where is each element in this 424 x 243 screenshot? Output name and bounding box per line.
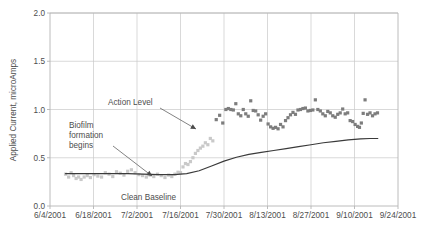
x-tick-label: 9/10/2001 <box>336 211 373 220</box>
data-point-baseline <box>152 175 155 178</box>
data-point-elevated <box>319 109 322 112</box>
data-point-elevated <box>284 119 287 122</box>
annotation-action-level: Action Level <box>108 98 153 107</box>
annotation-arrowhead-action-level <box>190 124 196 129</box>
data-point-baseline <box>181 165 184 168</box>
data-point-baseline <box>111 175 114 178</box>
data-point-baseline <box>83 175 86 178</box>
y-tick-label: 2.0 <box>34 9 46 18</box>
data-point-elevated <box>267 122 270 125</box>
data-point-elevated <box>259 119 262 122</box>
data-point-elevated <box>286 116 289 119</box>
data-point-elevated <box>363 98 366 101</box>
data-point-baseline <box>201 145 204 148</box>
data-point-elevated <box>311 108 314 111</box>
data-point-baseline <box>206 143 209 146</box>
data-point-baseline <box>96 174 99 177</box>
data-point-baseline <box>130 168 133 171</box>
data-point-baseline <box>163 176 166 179</box>
data-point-baseline <box>100 175 103 178</box>
x-axis-tick-labels: 6/4/20016/18/20017/2/20017/16/20017/30/2… <box>34 206 417 220</box>
data-point-elevated <box>249 99 252 102</box>
y-tick-label: 1.5 <box>34 57 46 66</box>
annotation-biofilm-formation-line: begins <box>69 141 93 150</box>
data-point-elevated <box>215 118 218 121</box>
data-point-baseline <box>115 170 118 173</box>
data-point-baseline <box>72 174 75 177</box>
data-point-elevated <box>351 120 354 123</box>
data-point-elevated <box>334 116 337 119</box>
y-axis-tick-labels: 0.00.51.01.52.0 <box>34 9 50 211</box>
data-point-baseline <box>145 175 148 178</box>
y-tick-label: 0.5 <box>34 154 46 163</box>
data-point-baseline <box>186 163 189 166</box>
data-point-elevated <box>341 107 344 110</box>
data-point-elevated <box>294 113 297 116</box>
annotation-arrow-biofilm-formation <box>113 146 152 176</box>
data-point-baseline <box>79 178 82 181</box>
trend-line-path <box>66 138 378 174</box>
annotation-biofilm-formation-line: formation <box>69 131 104 140</box>
x-tick-label: 9/24/2001 <box>380 211 417 220</box>
data-point-elevated <box>339 111 342 114</box>
data-point-elevated <box>247 115 250 118</box>
applied-current-scatter-chart: 0.00.51.01.52.0 6/4/20016/18/20017/2/200… <box>0 0 424 243</box>
data-point-elevated <box>218 114 221 117</box>
data-point-elevated <box>346 111 349 114</box>
y-axis-label: Applied Current, microAmps <box>9 59 18 161</box>
data-point-elevated <box>232 108 235 111</box>
data-point-elevated <box>376 111 379 114</box>
annotation-biofilm-formation-line: Biofilm <box>69 121 94 130</box>
data-point-elevated <box>368 111 371 114</box>
data-point-baseline <box>194 152 197 155</box>
data-point-elevated <box>264 112 267 115</box>
data-point-elevated <box>324 114 327 117</box>
data-point-elevated <box>221 121 224 124</box>
data-point-baseline <box>191 156 194 159</box>
data-point-elevated <box>239 114 242 117</box>
data-point-elevated <box>234 102 237 105</box>
data-point-elevated <box>358 126 361 129</box>
trend-line <box>66 138 378 174</box>
x-tick-label: 6/4/2001 <box>34 211 66 220</box>
annotation-clean-baseline: Clean Baseline <box>121 193 177 202</box>
x-tick-label: 8/13/2001 <box>249 211 286 220</box>
data-point-elevated <box>329 111 332 114</box>
x-tick-label: 7/2/2001 <box>121 211 153 220</box>
annotation-arrow-action-level <box>160 108 196 129</box>
data-point-elevated <box>281 125 284 128</box>
annotations-group: Action LevelBiofilmformationbeginsClean … <box>69 98 196 202</box>
x-tick-label: 6/18/2001 <box>75 211 112 220</box>
annotation-arrowhead-biofilm-formation <box>146 171 152 176</box>
data-point-baseline <box>86 174 89 177</box>
x-tick-label: 7/30/2001 <box>206 211 243 220</box>
data-point-elevated <box>314 98 317 101</box>
data-point-elevated <box>242 108 245 111</box>
data-point-elevated <box>257 113 260 116</box>
x-tick-label: 8/27/2001 <box>293 211 330 220</box>
y-tick-label: 0.0 <box>34 202 46 211</box>
data-point-baseline <box>126 170 129 173</box>
data-point-baseline <box>89 176 92 179</box>
data-point-baseline <box>67 175 70 178</box>
data-point-elevated <box>360 121 363 124</box>
data-point-baseline <box>189 160 192 163</box>
data-point-elevated <box>362 112 365 115</box>
data-point-baseline <box>170 175 173 178</box>
chart-container: 0.00.51.01.52.0 6/4/20016/18/20017/2/200… <box>0 0 424 243</box>
y-tick-label: 1.0 <box>34 106 46 115</box>
data-point-elevated <box>304 106 307 109</box>
data-point-elevated <box>254 109 257 112</box>
x-tick-label: 7/16/2001 <box>162 211 199 220</box>
data-point-baseline <box>211 139 214 142</box>
data-point-elevated <box>276 127 279 130</box>
